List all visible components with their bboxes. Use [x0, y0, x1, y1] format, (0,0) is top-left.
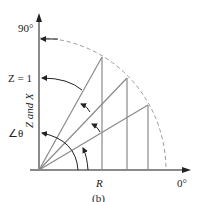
vertical-axis-arrow-icon	[36, 13, 42, 22]
label-0-degrees: 0°	[177, 177, 187, 189]
label-y-axis: Z and X	[23, 92, 35, 128]
label-z-equals-1: Z = 1	[8, 72, 32, 84]
figure-caption: (b)	[92, 192, 105, 202]
impedance-diagram: 90° Z = 1 Z and X ∠θ R 0° (b)	[0, 0, 200, 202]
ray3-low-arrow-icon	[83, 148, 88, 170]
ray3-angle-arrow-icon	[92, 124, 100, 132]
label-r-axis: R	[95, 177, 103, 189]
ray2-angle-arrow-icon	[81, 104, 90, 112]
horizontal-axis-arrow-icon	[182, 167, 191, 173]
label-90-degrees: 90°	[18, 22, 33, 34]
z-arc-arrow-icon	[42, 78, 82, 90]
label-theta: ∠θ	[8, 127, 23, 139]
